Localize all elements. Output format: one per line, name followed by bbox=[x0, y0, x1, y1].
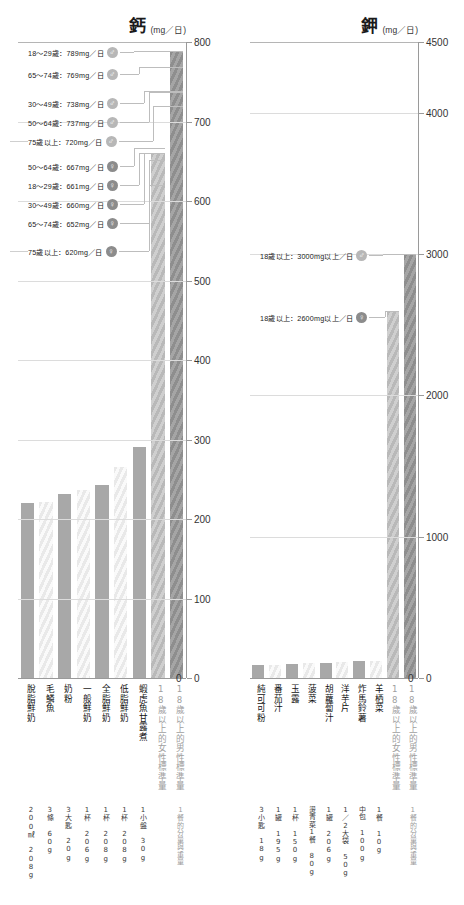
potassium-bar bbox=[320, 663, 332, 678]
calcium-axis-tick-label: 100 bbox=[194, 593, 211, 604]
potassium-axis-tick-label: 3000 bbox=[426, 249, 448, 260]
calcium-axis-tick bbox=[187, 519, 192, 520]
calcium-chart-title-row: 鈣 (mg／日) bbox=[129, 18, 186, 35]
calcium-axis-tick bbox=[187, 42, 192, 43]
calcium-category-label: 全脂鮮奶 bbox=[95, 684, 108, 722]
potassium-axis-unit: (mg／日) bbox=[383, 26, 418, 36]
potassium-category-label: 胡蘿蔔汁 bbox=[320, 684, 332, 722]
potassium-axis-tick bbox=[419, 395, 424, 396]
potassium-category-label: 洋芋片 bbox=[336, 684, 348, 713]
potassium-bar bbox=[370, 661, 382, 678]
calcium-x-axis bbox=[18, 678, 186, 679]
potassium-serving-label: 1罐 195g bbox=[269, 806, 281, 863]
calcium-category-label: 蝦虎魚甘露煮 bbox=[133, 684, 146, 741]
potassium-serving-label: 3小匙 18g bbox=[252, 806, 264, 862]
potassium-serving-labels: 3小匙 18g1罐 195g1杯 150g燙青菜1餐 80g1罐 206g1／2… bbox=[250, 806, 418, 901]
calcium-bar bbox=[114, 467, 127, 678]
calcium-axis-tick bbox=[187, 360, 192, 361]
potassium-axis-tick-label: 0 bbox=[426, 673, 432, 684]
potassium-reference-label-female: 18歲以上的女性標準量 bbox=[387, 684, 399, 791]
calcium-serving-label: 3條 60g bbox=[39, 806, 52, 855]
potassium-serving-label: 1／2大袋 50g bbox=[336, 806, 348, 878]
calcium-gridline bbox=[18, 122, 186, 123]
potassium-bar bbox=[353, 661, 365, 678]
calcium-serving-label: 3大匙 20g bbox=[58, 806, 71, 862]
potassium-gridline bbox=[250, 113, 418, 114]
potassium-chart-title-row: 鉀 (mg／日) bbox=[361, 18, 418, 35]
calcium-axis-unit: (mg／日) bbox=[151, 26, 186, 36]
potassium-category-label: 菠菜 bbox=[303, 684, 315, 703]
potassium-axis-tick-label: 4500 bbox=[426, 37, 448, 48]
potassium-category-label: 番茄汁 bbox=[269, 684, 281, 713]
potassium-gridline bbox=[250, 254, 418, 255]
calcium-reference-label-female: 18歲以上的女性標準量 bbox=[151, 684, 164, 791]
potassium-gridline bbox=[250, 42, 418, 43]
calcium-reference-bar-male bbox=[170, 51, 183, 678]
calcium-axis-tick bbox=[187, 201, 192, 202]
potassium-category-label: 羊栖菜 bbox=[370, 684, 382, 713]
calcium-serving-label: 200㎖ 208g bbox=[21, 806, 34, 880]
potassium-axis-zero-label: 0 bbox=[408, 673, 414, 684]
potassium-serving-label: 中包 100g bbox=[353, 806, 365, 862]
calcium-gridline bbox=[18, 42, 186, 43]
calcium-axis-tick-label: 200 bbox=[194, 514, 211, 525]
calcium-gridline bbox=[18, 201, 186, 202]
potassium-axis-tick-label: 2000 bbox=[426, 390, 448, 401]
calcium-axis-tick-label: 300 bbox=[194, 434, 211, 445]
calcium-bar bbox=[58, 494, 71, 678]
potassium-bar bbox=[286, 664, 298, 678]
potassium-reference-bar-female bbox=[387, 311, 399, 678]
potassium-chart-title: 鉀 bbox=[361, 18, 379, 35]
potassium-category-label: 炸馬鈴薯 bbox=[353, 684, 365, 722]
calcium-bar bbox=[95, 485, 108, 678]
calcium-category-label: 脫脂鮮奶 bbox=[21, 684, 34, 722]
potassium-axis-tick bbox=[419, 678, 424, 679]
potassium-reference-bar-male bbox=[404, 254, 416, 678]
potassium-serving-label: 1罐 206g bbox=[320, 806, 332, 863]
potassium-category-label: 純可可粉 bbox=[252, 684, 264, 722]
calcium-category-label: 毛鱗魚 bbox=[39, 684, 52, 713]
calcium-gridline bbox=[18, 599, 186, 600]
calcium-serving-label: 1杯 208g bbox=[95, 806, 108, 863]
potassium-y-axis bbox=[418, 42, 419, 678]
potassium-x-axis bbox=[250, 678, 418, 679]
calcium-serving-label: 1小盤 30g bbox=[133, 806, 146, 862]
calcium-axis-tick bbox=[187, 440, 192, 441]
calcium-axis-tick-label: 700 bbox=[194, 116, 211, 127]
potassium-bar bbox=[336, 662, 348, 678]
potassium-plot-area: 010002000300040004500 bbox=[250, 42, 418, 678]
calcium-axis-tick-label: 0 bbox=[194, 673, 200, 684]
calcium-axis-zero-label: 0 bbox=[176, 673, 182, 684]
potassium-axis-tick bbox=[419, 254, 424, 255]
potassium-axis-tick bbox=[419, 537, 424, 538]
calcium-axis-tick-label: 800 bbox=[194, 37, 211, 48]
potassium-axis-tick bbox=[419, 113, 424, 114]
calcium-serving-labels: 200㎖ 208g3條 60g3大匙 20g1杯 206g1杯 208g1杯 2… bbox=[18, 806, 186, 901]
potassium-serving-label: 燙青菜1餐 80g bbox=[303, 806, 315, 877]
calcium-reference-label-male: 18歲以上的男性標準量 bbox=[170, 684, 183, 791]
calcium-axis-tick-label: 400 bbox=[194, 355, 211, 366]
calcium-gridline bbox=[18, 519, 186, 520]
calcium-category-labels: 脫脂鮮奶毛鱗魚奶粉一般鮮奶全脂鮮奶低脂鮮奶蝦虎魚甘露煮18歲以上的女性標準量18… bbox=[18, 684, 186, 804]
potassium-bar bbox=[269, 665, 281, 678]
calcium-serving-label: 1杯 206g bbox=[77, 806, 90, 863]
potassium-chart-panel: 鉀 (mg／日) 010002000300040004500 18歲以上：300… bbox=[232, 0, 464, 905]
potassium-gridline bbox=[250, 395, 418, 396]
calcium-plot-area: 0100200300400500600700800 bbox=[18, 42, 186, 678]
calcium-category-label: 奶粉 bbox=[58, 684, 71, 703]
potassium-gridline bbox=[250, 537, 418, 538]
calcium-gridline bbox=[18, 440, 186, 441]
potassium-axis-tick-label: 4000 bbox=[426, 107, 448, 118]
potassium-serving-label: 1餐 10g bbox=[370, 806, 382, 855]
potassium-reference-label-male: 18歲以上的男性標準量 bbox=[404, 684, 416, 791]
calcium-category-label: 一般鮮奶 bbox=[77, 684, 90, 722]
potassium-bar bbox=[252, 665, 264, 678]
calcium-category-label: 低脂鮮奶 bbox=[114, 684, 127, 722]
potassium-serving-note: 1餐的分量與重量 bbox=[404, 806, 416, 865]
potassium-bars bbox=[250, 42, 418, 678]
calcium-bar bbox=[133, 447, 146, 678]
calcium-bar bbox=[21, 503, 34, 678]
calcium-axis-tick bbox=[187, 281, 192, 282]
calcium-axis-tick bbox=[187, 599, 192, 600]
potassium-category-labels: 純可可粉番茄汁玉露菠菜胡蘿蔔汁洋芋片炸馬鈴薯羊栖菜18歲以上的女性標準量18歲以… bbox=[250, 684, 418, 804]
